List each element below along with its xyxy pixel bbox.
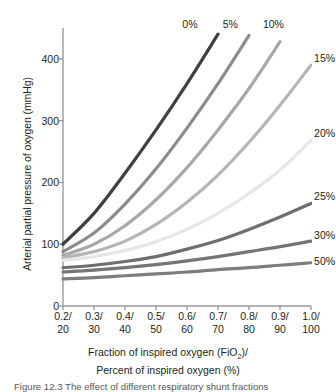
x-axis-tick-labels: 0.2/200.3/300.4/400.5/500.6/600.7/700.8/… [63, 310, 311, 350]
y-tick-label: 200 [25, 177, 59, 187]
curve-label-20pct: 20% [314, 128, 335, 139]
curve-label-10pct: 10% [263, 19, 284, 30]
chart-svg [63, 28, 311, 306]
x-axis-title: Fraction of inspired oxygen (FiO2)/ Perc… [0, 346, 336, 377]
plot-area [63, 28, 311, 306]
curve-label-25pct: 25% [314, 191, 335, 202]
curve-label-30pct: 30% [314, 230, 335, 241]
curve-label-50pct: 50% [314, 256, 335, 267]
y-tick-label: 400 [25, 54, 59, 64]
curve-5pct [63, 35, 249, 251]
y-tick-label: 300 [25, 116, 59, 126]
x-tick-percent: 100 [291, 323, 331, 336]
x-axis-title-line1: Fraction of inspired oxygen (FiO2)/ [88, 346, 248, 358]
y-tick-label: 100 [25, 239, 59, 249]
figure-container: Arterial partial pressure of oxygen (mmH… [0, 0, 336, 392]
x-tick-fraction: 1.0/ [291, 310, 331, 323]
x-axis-title-line2: Percent of inspired oxygen (%) [0, 364, 336, 378]
x-axis-title-line1-prefix: Fraction of inspired oxygen (FiO [88, 346, 237, 358]
curve-label-5pct: 5% [223, 19, 238, 30]
curves-group [63, 34, 311, 279]
x-axis-title-line1-suffix: )/ [242, 346, 248, 358]
curve-label-0pct: 0% [182, 19, 197, 30]
curve-25pct [63, 203, 311, 267]
x-tick-label: 1.0/100 [291, 310, 331, 336]
curve-label-15pct: 15% [314, 53, 335, 64]
figure-caption: Figure 12.3 The effect of different resp… [14, 381, 326, 392]
